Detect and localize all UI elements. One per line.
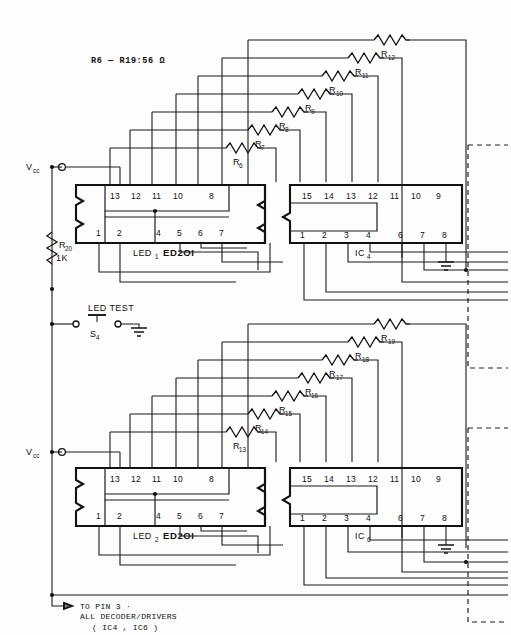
led1-pin-13: 13	[110, 191, 120, 201]
footer-note-group: TO PIN 3 · ALL DECODER/DRIVERS ( IC4 , I…	[50, 593, 508, 632]
led1-display-package[interactable]: 13 12 11 10 8 1 2 4 5 6 7 LED 1 ED2OI	[76, 185, 265, 260]
led2-pin-12: 12	[131, 474, 141, 484]
junction-vcc-bottom	[50, 450, 54, 454]
ic4-pin-13: 13	[346, 191, 356, 201]
switch-s4-sub: 4	[96, 334, 100, 341]
led1-pin-5: 5	[177, 228, 182, 238]
ic4-package[interactable]: 15 14 13 12 11 10 9 1 2 3 4 6 7 8 IC 4	[283, 185, 462, 260]
led2-designator-sub: 2	[155, 536, 159, 543]
led1-pin-4: 4	[156, 228, 161, 238]
led2-pin-6: 6	[198, 511, 203, 521]
vcc-top-label: V	[26, 162, 32, 172]
wire-ic6-pin6	[402, 526, 508, 572]
footer-note-line3: ( IC4 , IC6 )	[92, 623, 158, 632]
wire-ic6-pin7	[424, 526, 466, 562]
ic4-pin-11: 11	[390, 191, 399, 201]
ic6-package[interactable]: 15 14 13 12 11 10 9 1 2 3 4 6 7 8 IC 6	[283, 468, 462, 543]
ic6-pin-11: 11	[390, 474, 399, 484]
led1-pin-2: 2	[117, 228, 122, 238]
led1-pin-7: 7	[219, 228, 224, 238]
led2-display-package[interactable]: 13 12 11 10 8 1 2 4 5 6 7 LED 2 ED2OI	[76, 468, 265, 543]
led1-pin-6: 6	[198, 228, 203, 238]
led-test-label: LED TEST	[88, 303, 134, 313]
resistor-r6-sub: 6	[239, 162, 243, 169]
led-test-switch-group[interactable]: LED TEST S 4	[50, 303, 147, 341]
ic4-designator: IC	[355, 248, 365, 258]
led1-designator-sub: 1	[155, 253, 159, 260]
led1-pin-12: 12	[131, 191, 141, 201]
ic6-pin-7: 7	[420, 513, 425, 523]
ic4-pin-12: 12	[368, 191, 378, 201]
ic4-pin-15: 15	[302, 191, 312, 201]
ic6-pin-3: 3	[344, 513, 349, 523]
resistor-r11-group: R 11	[222, 53, 402, 258]
schematic-canvas: R6 — R19:56 Ω R 12 R 11 R 10	[0, 0, 511, 635]
ic4-pin-2: 2	[322, 230, 327, 240]
ic6-pin-14: 14	[324, 474, 334, 484]
wire-ic6-pin1	[304, 526, 508, 585]
resistor-r6-group: R 6	[110, 143, 276, 182]
ic4-pin-8: 8	[442, 230, 447, 240]
ic6-pin-4: 4	[366, 513, 371, 523]
junction-r20-bottom	[50, 287, 54, 291]
ground-symbol-s4	[131, 328, 147, 336]
ic4-pin-9: 9	[436, 191, 441, 201]
led2-pin-8: 8	[209, 474, 214, 484]
dashed-region-top	[468, 145, 508, 368]
wire-ic4-pin2	[326, 243, 508, 292]
led1-pin-8: 8	[209, 191, 214, 201]
led2-pin-10: 10	[173, 474, 183, 484]
vcc-top-terminal: V cc	[26, 162, 120, 174]
vcc-top-sub: cc	[33, 167, 39, 174]
ic6-pin-1: 1	[300, 513, 305, 523]
junction-switch-left	[50, 322, 54, 326]
ic4-pin-4: 4	[366, 230, 371, 240]
resistor-r18-group: R 18	[222, 337, 402, 538]
resistor-r13-group: R 13	[110, 427, 276, 462]
wire-ic6-pin3	[348, 526, 508, 552]
ic6-pin-8: 8	[442, 513, 447, 523]
led2-designator: LED	[133, 531, 152, 541]
wire-ic4-pin4	[370, 243, 508, 252]
resistor-r20-sub: 20	[65, 245, 73, 252]
led2-pin-7: 7	[219, 511, 224, 521]
vcc-bottom-label: V	[26, 447, 32, 457]
led2-pin-4: 4	[156, 511, 161, 521]
resistor-r7-group: R 7	[130, 125, 300, 182]
ic6-pin-2: 2	[322, 513, 327, 523]
resistor-r20-value: 1K	[56, 253, 68, 263]
resistor-r20-group: R 20 1K	[47, 232, 73, 264]
resistor-r13-sub: 13	[239, 446, 247, 453]
vcc-bottom-terminal: V cc	[26, 447, 120, 459]
dashed-region-bottom	[468, 428, 508, 622]
led1-pin-10: 10	[173, 191, 183, 201]
footer-note-line1: TO PIN 3 ·	[80, 602, 131, 611]
ic4-pin-6: 6	[398, 230, 403, 240]
ic6-pin-15: 15	[302, 474, 312, 484]
ic4-pin-7: 7	[420, 230, 425, 240]
led1-pin-11: 11	[152, 191, 161, 201]
schematic-diagram: R6 — R19:56 Ω R 12 R 11 R 10	[0, 0, 511, 635]
led2-pin-5: 5	[177, 511, 182, 521]
resistor-r14-group: R 14	[130, 409, 300, 462]
led1-designator: LED	[133, 248, 152, 258]
led2-pin-2: 2	[117, 511, 122, 521]
ground-symbol-ic4	[438, 243, 454, 270]
wire-ic6-pin4	[370, 526, 508, 540]
junction-vcc-top	[50, 165, 54, 169]
ic4-pin-3: 3	[344, 230, 349, 240]
ic6-designator: IC	[355, 531, 365, 541]
ic6-pin-9: 9	[436, 474, 441, 484]
vcc-bottom-sub: cc	[33, 452, 39, 459]
ic6-pin-10: 10	[411, 474, 421, 484]
footer-note-line2: ALL DECODER/DRIVERS	[80, 612, 177, 621]
ic6-pin-6: 6	[398, 513, 403, 523]
ic4-designator-sub: 4	[367, 253, 371, 260]
led2-pin-11: 11	[152, 474, 161, 484]
led2-pin-13: 13	[110, 474, 120, 484]
ic4-pin-1: 1	[300, 230, 305, 240]
ic6-pin-12: 12	[368, 474, 378, 484]
led1-pin-1: 1	[96, 228, 101, 238]
ic6-pin-13: 13	[346, 474, 356, 484]
resistor-value-note: R6 — R19:56 Ω	[91, 56, 165, 66]
